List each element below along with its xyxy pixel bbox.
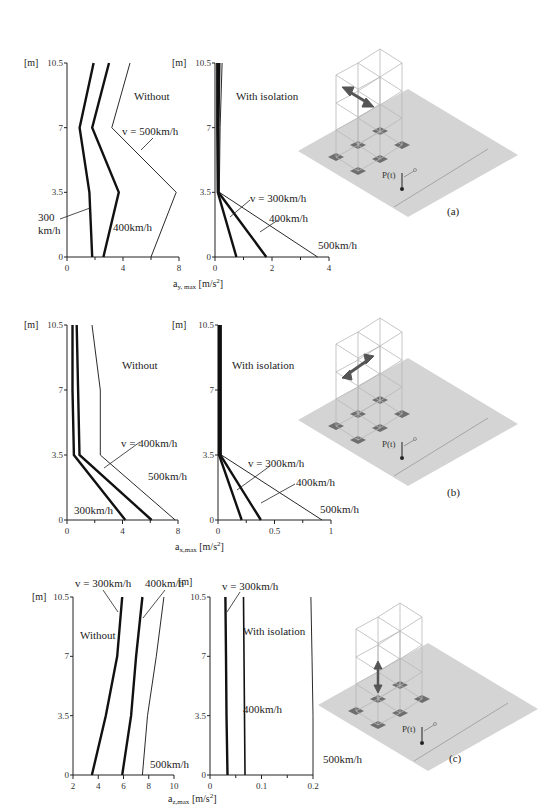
y-unit-label: [m] [24,57,38,68]
beam [358,360,380,374]
y-tick-label: 7 [202,651,207,661]
chart-b-without: 03.5710.5048 [47,320,181,536]
force-label: P(t) [382,170,396,180]
ground-plane [298,358,518,486]
x-tick-label: 4 [120,526,125,536]
beam [380,49,402,63]
annotation-v300: v = 300km/h [248,457,305,469]
series-line [92,597,122,775]
panel-label-a: (a) [447,205,460,218]
x-tick-label: 1 [329,526,334,536]
series-line [77,325,152,520]
leader-line [230,200,250,217]
force-label: P(t) [382,439,396,449]
x-tick-label: 6 [121,781,126,791]
y-tick-label: 10.5 [190,592,206,602]
x-axis-label: ay, max [m/s2] [173,277,223,291]
leader-line [237,466,270,490]
panel-label-b: (b) [447,486,460,499]
leader-line [103,590,118,612]
annotation-400: 400km/h [145,577,185,589]
beam [356,629,378,643]
y-tick-label: 7 [59,385,64,395]
annotation-500: 500km/h [150,758,190,770]
y-tick-label: 3.5 [200,187,212,197]
y-tick-label: 0 [65,770,70,780]
series-line [220,325,261,520]
y-tick-label: 7 [210,385,215,395]
y-tick-label: 3.5 [195,711,207,721]
x-tick-label: 0 [213,263,218,273]
x-tick-label: 2 [270,263,275,273]
building-diagram-b: P(t) [298,318,518,486]
x-tick-label: 8 [176,526,181,536]
series-line [219,325,242,520]
x-axis-label: az,max [m/s2] [168,792,217,806]
series-line [217,63,236,257]
series-line [225,597,227,775]
leader-line [261,484,295,503]
annotation-kmh: km/h [38,224,61,236]
x-axis-label: ax,max [m/s2] [175,540,224,554]
y-tick-label: 10.5 [53,592,69,602]
x-tick-label: 4 [121,263,126,273]
y-tick-label: 7 [65,651,70,661]
y-tick-label: 3.5 [52,450,64,460]
annotation-v300: v = 300km/h [222,580,279,592]
beam [400,631,422,645]
annotation-300: 300km/h [74,504,114,516]
panel-title-with-isolation: With isolation [243,625,306,637]
y-tick-label: 3.5 [52,187,64,197]
y-unit-label: [m] [32,591,46,602]
leader-line [60,208,90,219]
series-line [80,63,94,257]
x-tick-label: 4 [327,263,332,273]
annotation-400: 400km/h [296,476,336,488]
annotation-500: 500km/h [148,470,188,482]
annotation-v300: v = 300km/h [250,192,307,204]
panel-title-with-isolation: With isolation [236,90,299,102]
ground-plane [298,89,518,217]
x-tick-label: 0 [65,263,70,273]
x-tick-label: 4 [96,781,101,791]
y-tick-label: 10.5 [198,320,214,330]
y-unit-label: [m] [172,319,186,330]
building-diagram-c: P(t) [318,603,538,771]
beam [400,603,422,617]
beam [336,344,358,358]
y-tick-label: 3.5 [203,450,215,460]
beam [336,103,358,117]
series-line [311,597,313,775]
annotation-v300: v = 300km/h [75,577,132,589]
x-tick-label: 0.5 [269,526,281,536]
panel-title-without: Without [134,90,170,102]
panel-label-c: (c) [449,752,462,765]
y-tick-label: 3.5 [58,711,70,721]
panel-title-without: Without [80,629,116,641]
series-line [92,325,175,520]
y-unit-label: [m] [24,319,38,330]
y-tick-label: 0 [59,515,64,525]
series-line [122,597,142,775]
force-label: P(t) [402,724,416,734]
x-tick-label: 8 [147,781,152,791]
x-tick-label: 0 [216,526,221,536]
ground-plane [318,643,538,771]
x-tick-label: 0 [65,526,70,536]
annotation-v500: v = 500km/h [122,125,179,137]
chart-c-with: 03.5710.500.10.2 [190,592,318,791]
beam [380,346,402,360]
y-tick-label: 7 [59,123,64,133]
beam [358,332,380,346]
annotation-v400: v = 400km/h [121,437,178,449]
figure: 03.5710.504803.5710.502403.5710.504803.5… [0,0,545,808]
panel-title-with-isolation: With isolation [232,359,295,371]
series-line [142,597,164,775]
x-tick-label: 0 [208,781,213,791]
annotation-500: 500km/h [318,239,358,251]
annotation-500: 500km/h [323,753,363,765]
x-tick-label: 0.1 [256,781,267,791]
y-tick-label: 10.5 [47,320,63,330]
annotation-400: 400km/h [113,221,153,233]
y-unit-label: [m] [172,57,186,68]
